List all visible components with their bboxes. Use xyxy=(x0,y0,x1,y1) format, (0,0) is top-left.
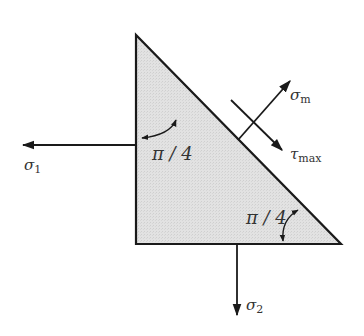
sigma-m-label: σm xyxy=(290,86,311,106)
angle-label-bottom: π / 4 xyxy=(245,207,287,228)
sigma2-label: σ2 xyxy=(246,296,263,316)
angle-label-top: π / 4 xyxy=(151,143,193,164)
stress-diagram: π / 4 π / 4 σ1 σ2 σm τmax xyxy=(0,0,364,336)
sigma1-label: σ1 xyxy=(24,156,41,176)
tau-max-label: τmax xyxy=(290,145,322,165)
